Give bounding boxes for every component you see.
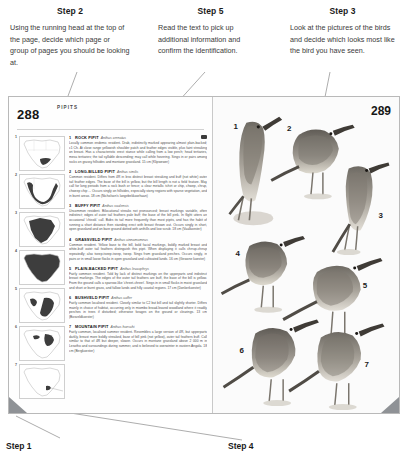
step-2-title: Step 2 — [10, 6, 130, 16]
range-map-item: 6 — [15, 325, 65, 361]
bird-illustration-plate: 1 2 — [213, 97, 399, 413]
species-description: Common resident. Yellow base to the bill… — [69, 243, 207, 262]
bird-illustration-2: 2 — [271, 124, 354, 200]
range-map-6 — [19, 326, 65, 361]
bird-illustration-6: 6 — [224, 320, 319, 406]
species-description: Fairly common localised resident. Closel… — [69, 301, 207, 320]
species-heading: 7 MOUNTAIN PIPIT Anthus hoeschi — [69, 324, 207, 329]
species-entry: 5 PLAIN-BACKED PIPIT Anthus leucophrys F… — [69, 266, 207, 291]
bird-illustration-1: 1 — [229, 117, 282, 225]
callout-step-2: Step 2 Using the running head at the top… — [10, 6, 130, 69]
step-3-body: Look at the pictures of the birds and de… — [290, 22, 395, 57]
bird-illustration-3: 3 — [333, 163, 390, 255]
header-rule — [17, 129, 204, 130]
left-page-body: 1 2 — [15, 133, 207, 407]
species-number: 1 — [69, 136, 73, 140]
left-page-header: 288 — [17, 105, 204, 127]
step-2-body: Using the running head at the top of the… — [10, 22, 130, 69]
svg-text:3: 3 — [379, 211, 384, 220]
book-page-right: 289 — [213, 97, 399, 413]
range-map-number: 7 — [15, 363, 17, 367]
range-map-3 — [19, 212, 65, 247]
species-entry: 3 BUFFY PIPIT Anthus vaalensis Uncommon … — [69, 203, 207, 232]
bird-illustration-4: 4 — [222, 236, 305, 313]
species-entry: 2 LONG-BILLED PIPIT Anthus similis Commo… — [69, 169, 207, 198]
species-number: 6 — [69, 296, 73, 300]
range-map-item: 5 — [15, 287, 65, 323]
species-common-name: LONG-BILLED PIPIT — [75, 169, 115, 174]
range-map-2 — [19, 174, 65, 209]
species-common-name: PLAIN-BACKED PIPIT — [75, 266, 118, 271]
step-5-title: Step 5 — [158, 6, 263, 16]
species-common-name: BUFFY PIPIT — [75, 203, 100, 208]
species-scientific-name: Anthus crenatus — [101, 136, 126, 140]
book-page-left: 288 PIPITS 1 — [9, 97, 213, 413]
range-map-item: 2 — [15, 173, 65, 209]
range-map-number: 2 — [15, 173, 17, 177]
svg-text:5: 5 — [363, 281, 368, 290]
svg-text:7: 7 — [365, 360, 370, 369]
species-number: 3 — [69, 204, 73, 208]
species-common-name: BUSHVELD PIPIT — [75, 295, 109, 300]
species-common-name: MOUNTAIN PIPIT — [75, 324, 109, 329]
svg-text:4: 4 — [235, 249, 240, 258]
species-scientific-name: Anthus hoeschi — [111, 325, 135, 329]
species-description: Common resident. Differs from 4R in less… — [69, 175, 207, 198]
species-number: 2 — [69, 170, 73, 174]
species-entry: 4 GRASSVELD PIPIT Anthus cinnamomeus Com… — [69, 237, 207, 262]
species-description: Uncommon resident. Bilocational streaks … — [69, 209, 207, 232]
endemic-badge-icon — [201, 135, 207, 139]
species-scientific-name: Anthus leucophrys — [120, 267, 149, 271]
svg-text:1: 1 — [233, 122, 238, 131]
species-scientific-name: Anthus vaalensis — [102, 204, 128, 208]
range-map-item: 4 — [15, 249, 65, 285]
range-map-number: 5 — [15, 287, 17, 291]
species-heading: 2 LONG-BILLED PIPIT Anthus similis — [69, 169, 207, 174]
annotated-field-guide-diagram: Step 2 Using the running head at the top… — [0, 0, 408, 451]
species-heading: 3 BUFFY PIPIT Anthus vaalensis — [69, 203, 207, 208]
species-heading: 5 PLAIN-BACKED PIPIT Anthus leucophrys — [69, 266, 207, 271]
species-description: Fairly common, localised summer resident… — [69, 330, 207, 353]
range-map-column: 1 2 — [15, 133, 65, 407]
species-scientific-name: Anthus caffer — [111, 296, 132, 300]
range-map-number: 6 — [15, 325, 17, 329]
species-heading: 4 GRASSVELD PIPIT Anthus cinnamomeus — [69, 237, 207, 242]
callout-step-1-title: Step 1 — [6, 441, 32, 451]
species-text-column: 1 ROCK PIPIT Anthus crenatus Locally com… — [69, 133, 207, 407]
range-map-item: 3 — [15, 211, 65, 247]
species-heading: 6 BUSHVELD PIPIT Anthus caffer — [69, 295, 207, 300]
step-5-body: Read the text to pick up additional info… — [158, 22, 263, 57]
species-scientific-name: Anthus cinnamomeus — [114, 238, 148, 242]
species-number: 4 — [69, 238, 73, 242]
species-common-name: GRASSVELD PIPIT — [75, 237, 112, 242]
range-map-item: 1 — [15, 135, 65, 171]
book-spread: 288 PIPITS 1 — [8, 96, 400, 414]
callout-step-5: Step 5 Read the text to pick up addition… — [158, 6, 263, 57]
page-corner-marker-right — [381, 397, 399, 413]
step-3-title: Step 3 — [290, 6, 395, 16]
range-map-1 — [19, 136, 65, 171]
svg-text:6: 6 — [239, 346, 244, 355]
left-page-folio: 288 — [17, 107, 40, 122]
range-map-number: 1 — [15, 135, 17, 139]
range-map-number: 3 — [15, 211, 17, 215]
range-map-5 — [19, 288, 65, 323]
callout-step-4-title: Step 4 — [228, 441, 254, 451]
species-scientific-name: Anthus similis — [117, 170, 138, 174]
svg-text:2: 2 — [287, 124, 292, 133]
range-map-7 — [19, 364, 65, 399]
species-entry: 7 MOUNTAIN PIPIT Anthus hoeschi Fairly c… — [69, 324, 207, 353]
species-description: Fairly common resident. Told by lack of … — [69, 272, 207, 291]
species-number: 7 — [69, 325, 73, 329]
species-entry: 6 BUSHVELD PIPIT Anthus caffer Fairly co… — [69, 295, 207, 320]
species-common-name: ROCK PIPIT — [75, 135, 99, 140]
callout-step-3: Step 3 Look at the pictures of the birds… — [290, 6, 395, 57]
species-number: 5 — [69, 267, 73, 271]
range-map-number: 4 — [15, 249, 17, 253]
running-head: PIPITS — [57, 105, 78, 110]
page-corner-marker-left — [9, 397, 27, 413]
range-map-4 — [19, 250, 65, 285]
bird-illustration-7: 7 — [289, 324, 384, 410]
species-entry: 1 ROCK PIPIT Anthus crenatus Locally com… — [69, 135, 207, 164]
species-heading: 1 ROCK PIPIT Anthus crenatus — [69, 135, 207, 140]
